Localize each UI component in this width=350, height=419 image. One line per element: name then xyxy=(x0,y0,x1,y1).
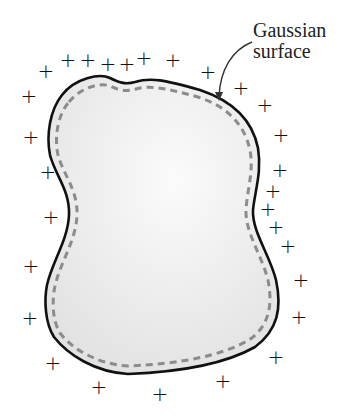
plus-charge-icon: + xyxy=(23,127,40,147)
plus-charge-icon: + xyxy=(152,384,169,404)
plus-charge-icon: + xyxy=(273,125,290,145)
plus-charge-icon: + xyxy=(100,54,117,74)
plus-charge-icon: + xyxy=(91,377,108,397)
plus-charge-icon: + xyxy=(165,50,182,70)
plus-charge-icon: + xyxy=(280,236,297,256)
plus-charge-icon: + xyxy=(215,371,232,391)
conductor-outline xyxy=(45,76,278,374)
gaussian-surface-diagram: Gaussian surface +++++++++++++++++++++++… xyxy=(0,0,350,419)
plus-charge-icon: + xyxy=(80,50,97,70)
plus-charge-icon: + xyxy=(268,347,285,367)
plus-charge-icon: + xyxy=(45,353,62,373)
plus-charge-icon: + xyxy=(257,95,274,115)
plus-charge-icon: + xyxy=(60,50,77,70)
plus-charge-icon: + xyxy=(43,207,60,227)
plus-charge-icon: + xyxy=(38,61,55,81)
plus-charge-icon: + xyxy=(21,86,38,106)
plus-charge-icon: + xyxy=(136,48,153,68)
plus-charge-icon: + xyxy=(119,54,136,74)
plus-charge-icon: + xyxy=(200,62,217,82)
plus-charge-icon: + xyxy=(293,270,310,290)
gaussian-label-line2: surface xyxy=(253,41,311,61)
plus-charge-icon: + xyxy=(272,160,289,180)
plus-charge-icon: + xyxy=(23,256,40,276)
plus-charge-icon: + xyxy=(40,162,57,182)
plus-charge-icon: + xyxy=(233,78,250,98)
plus-charge-icon: + xyxy=(291,307,308,327)
gaussian-label-line1: Gaussian xyxy=(253,20,326,40)
plus-charge-icon: + xyxy=(22,308,39,328)
